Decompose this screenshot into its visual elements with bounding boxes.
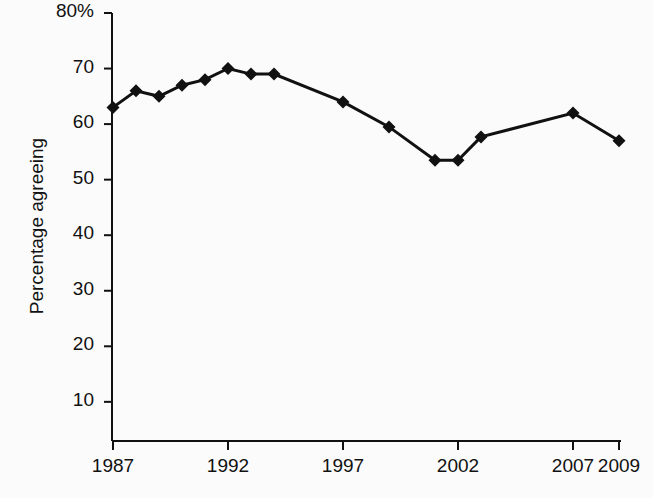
x-tick-label: 1992	[188, 455, 268, 477]
data-point-marker	[268, 68, 281, 81]
x-tick-label: 2009	[579, 455, 653, 477]
data-point-marker	[153, 90, 166, 103]
data-point-marker	[567, 107, 580, 120]
plot-area	[0, 0, 653, 498]
data-point-marker	[337, 95, 350, 108]
y-tick-label: 70	[0, 56, 94, 78]
data-line	[113, 69, 619, 161]
x-axis-ticks	[113, 441, 619, 450]
y-tick-label: 60	[0, 111, 94, 133]
y-tick-label: 40	[0, 222, 94, 244]
x-tick-label: 1997	[303, 455, 383, 477]
x-tick-label: 2002	[418, 455, 498, 477]
y-tick-label: 80%	[0, 0, 94, 22]
data-point-marker	[613, 134, 626, 147]
data-point-marker	[176, 79, 189, 92]
x-tick-label: 1987	[73, 455, 153, 477]
axes	[112, 13, 621, 441]
data-point-marker	[222, 62, 235, 75]
y-axis-ticks	[104, 13, 112, 402]
y-tick-label: 50	[0, 167, 94, 189]
data-point-marker	[199, 73, 212, 86]
y-tick-label: 10	[0, 389, 94, 411]
y-tick-label: 20	[0, 333, 94, 355]
data-point-marker	[245, 68, 258, 81]
y-tick-label: 30	[0, 278, 94, 300]
line-chart: Percentage agreeing 1020304050607080% 19…	[0, 0, 653, 498]
